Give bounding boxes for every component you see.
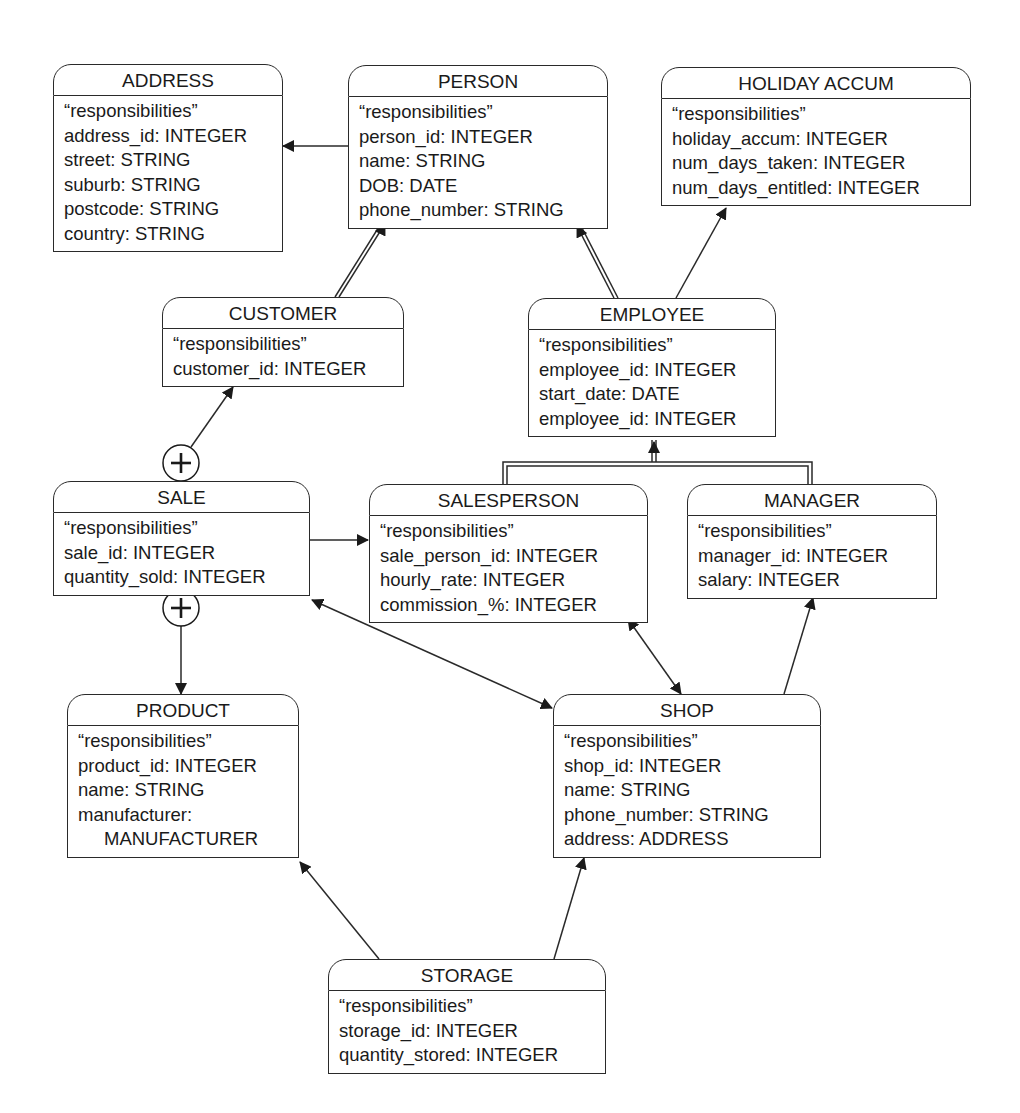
attribute: sale_id: INTEGER [64,541,309,566]
attribute: name: STRING [78,778,298,803]
attribute: street: STRING [64,148,282,173]
class-attributes: “responsibilities” manager_id: INTEGER s… [687,516,937,599]
class-attributes: “responsibilities” product_id: INTEGER n… [67,726,299,858]
attribute: commission_%: INTEGER [380,593,647,618]
class-attributes: “responsibilities” shop_id: INTEGER name… [553,726,821,858]
attribute: quantity_stored: INTEGER [339,1043,605,1068]
class-title: PERSON [348,65,608,97]
attribute: sale_person_id: INTEGER [380,544,647,569]
attribute: “responsibilities” [64,99,282,124]
class-title: SALESPERSON [369,484,648,516]
class-attributes: “responsibilities” person_id: INTEGER na… [348,97,608,229]
storage-product-link [300,862,379,959]
attribute: num_days_taken: INTEGER [672,151,970,176]
class-employee[interactable]: EMPLOYEE “responsibilities” employee_id:… [528,298,776,437]
class-attributes: “responsibilities” customer_id: INTEGER [162,329,404,387]
class-attributes: “responsibilities” holiday_accum: INTEGE… [661,99,971,206]
attribute: customer_id: INTEGER [173,357,403,382]
customer-person-inheritance [335,222,382,297]
attribute: salary: INTEGER [698,568,936,593]
salesperson-shop-link [628,619,681,694]
employee-holiday-link [676,208,726,298]
attribute: “responsibilities” [173,332,403,357]
class-attributes: “responsibilities” address_id: INTEGER s… [53,96,283,252]
class-attributes: “responsibilities” sale_person_id: INTEG… [369,516,648,623]
class-manager[interactable]: MANAGER “responsibilities” manager_id: I… [687,484,937,599]
attribute: DOB: DATE [359,174,607,199]
attribute: employee_id: INTEGER [539,407,775,432]
attribute: “responsibilities” [564,729,820,754]
class-address[interactable]: ADDRESS “responsibilities” address_id: I… [53,64,283,252]
attribute: postcode: STRING [64,197,282,222]
attribute: address_id: INTEGER [64,124,282,149]
class-title: CUSTOMER [162,297,404,329]
class-title: MANAGER [687,484,937,516]
class-salesperson[interactable]: SALESPERSON “responsibilities” sale_pers… [369,484,648,623]
class-holiday-accum[interactable]: HOLIDAY ACCUM “responsibilities” holiday… [661,67,971,206]
class-shop[interactable]: SHOP “responsibilities” shop_id: INTEGER… [553,694,821,858]
class-title: ADDRESS [53,64,283,96]
attribute: person_id: INTEGER [359,125,607,150]
attribute: “responsibilities” [78,729,298,754]
attribute: name: STRING [359,149,607,174]
sale-customer-aggregation [191,387,233,447]
class-title: EMPLOYEE [528,298,776,330]
attribute: employee_id: INTEGER [539,358,775,383]
attribute: phone_number: STRING [564,803,820,828]
attribute: “responsibilities” [672,102,970,127]
class-title: SHOP [553,694,821,726]
employee-person-inheritance [576,224,614,298]
class-attributes: “responsibilities” sale_id: INTEGER quan… [53,513,310,596]
attribute: suburb: STRING [64,173,282,198]
attribute: “responsibilities” [359,100,607,125]
attribute: hourly_rate: INTEGER [380,568,647,593]
class-title: HOLIDAY ACCUM [661,67,971,99]
attribute: name: STRING [564,778,820,803]
attribute: num_days_entitled: INTEGER [672,176,970,201]
class-title: SALE [53,481,310,513]
attribute: “responsibilities” [539,333,775,358]
attribute: “responsibilities” [698,519,936,544]
attribute: holiday_accum: INTEGER [672,127,970,152]
storage-shop-link [554,858,584,959]
attribute: quantity_sold: INTEGER [64,565,309,590]
attribute: manufacturer: [78,803,298,828]
attribute: shop_id: INTEGER [564,754,820,779]
class-storage[interactable]: STORAGE “responsibilities” storage_id: I… [328,959,606,1074]
class-sale[interactable]: SALE “responsibilities” sale_id: INTEGER… [53,481,310,596]
attribute: “responsibilities” [339,994,605,1019]
attribute: phone_number: STRING [359,198,607,223]
class-product[interactable]: PRODUCT “responsibilities” product_id: I… [67,694,299,858]
class-title: PRODUCT [67,694,299,726]
attribute: address: ADDRESS [564,827,820,852]
class-attributes: “responsibilities” employee_id: INTEGER … [528,330,776,437]
attribute: MANUFACTURER [78,827,298,852]
attribute: storage_id: INTEGER [339,1019,605,1044]
class-person[interactable]: PERSON “responsibilities” person_id: INT… [348,65,608,229]
class-customer[interactable]: CUSTOMER “responsibilities” customer_id:… [162,297,404,387]
attribute: product_id: INTEGER [78,754,298,779]
attribute: “responsibilities” [64,516,309,541]
attribute: country: STRING [64,222,282,247]
shop-manager-link [784,598,813,694]
attribute: manager_id: INTEGER [698,544,936,569]
attribute: start_date: DATE [539,382,775,407]
class-attributes: “responsibilities” storage_id: INTEGER q… [328,991,606,1074]
attribute: “responsibilities” [380,519,647,544]
class-title: STORAGE [328,959,606,991]
